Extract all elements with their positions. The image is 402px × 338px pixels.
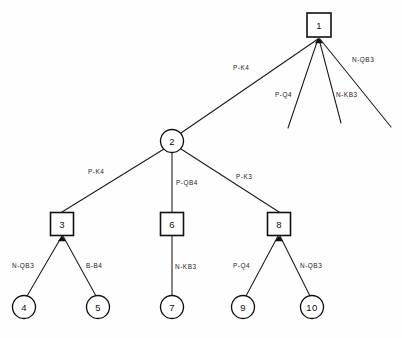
edge-move-label: P-K4 (88, 168, 104, 175)
tree-node-3[interactable]: 3 (51, 213, 74, 236)
tree-node-5[interactable]: 5 (87, 296, 110, 319)
edge-move-label: P-Q4 (275, 91, 292, 99)
tree-canvas: 12368457910 P-K4P-Q4N-KB3N-QB3P-K4P-QB4P… (0, 0, 402, 338)
node-label: 6 (169, 219, 175, 230)
node-label: 10 (306, 302, 317, 313)
tree-node-9[interactable]: 9 (232, 296, 255, 319)
edge-move-label: N-QB3 (300, 262, 322, 270)
edge-move-label: P-Q4 (233, 262, 250, 270)
tree-node-1[interactable]: 1 (307, 13, 331, 37)
tree-node-7[interactable]: 7 (161, 296, 184, 319)
tree-node-10[interactable]: 10 (301, 296, 324, 319)
tree-node-4[interactable]: 4 (13, 296, 36, 319)
tree-edge (246, 236, 278, 296)
edge-move-label: P-K4 (233, 64, 249, 71)
node-label: 5 (95, 302, 101, 313)
tree-edge (62, 149, 164, 212)
tree-node-8[interactable]: 8 (268, 213, 291, 236)
edge-move-label: N-KB3 (336, 91, 358, 98)
node-label: 2 (169, 136, 175, 147)
game-tree-diagram: 12368457910 P-K4P-Q4N-KB3N-QB3P-K4P-QB4P… (0, 0, 402, 338)
edge-move-label: N-QB3 (352, 56, 374, 64)
edge-move-label: P-K3 (236, 173, 252, 180)
node-label: 7 (169, 302, 175, 313)
node-label: 4 (21, 302, 27, 313)
tree-edge (181, 39, 318, 133)
node-label: 9 (240, 302, 246, 313)
edge-move-label: N-QB3 (12, 262, 34, 270)
edge-move-label: P-QB4 (176, 179, 198, 187)
node-label: 8 (276, 219, 282, 230)
tree-node-6[interactable]: 6 (161, 213, 184, 236)
tree-node-2[interactable]: 2 (161, 130, 184, 153)
edge-labels-group: P-K4P-Q4N-KB3N-QB3P-K4P-QB4P-K3N-QB3B-B4… (12, 56, 374, 270)
edge-move-label: N-KB3 (175, 263, 197, 270)
tree-edge (288, 39, 318, 128)
edges-group (27, 39, 391, 296)
node-label: 3 (59, 219, 65, 230)
node-label: 1 (316, 20, 322, 31)
edge-move-label: B-B4 (86, 262, 102, 269)
arrowheads-group (58, 38, 323, 241)
